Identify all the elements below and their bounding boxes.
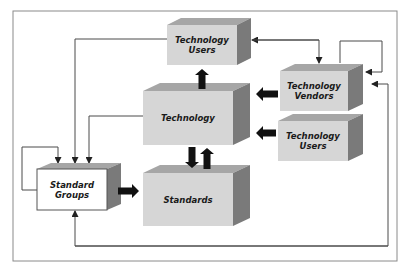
box-top-face xyxy=(143,83,250,91)
box-top-face xyxy=(143,165,250,173)
node-label: Standards xyxy=(163,195,212,205)
box-side-face xyxy=(107,163,121,210)
node-tech-vendors: TechnologyVendors xyxy=(280,64,363,111)
connector-tech-users-to-vendors xyxy=(252,40,319,63)
node-label: Technology xyxy=(286,131,340,141)
block-arrow-technology-to-standards xyxy=(185,147,199,168)
node-label: Technology xyxy=(175,35,229,45)
node-label: Standard xyxy=(50,180,95,190)
box-side-face xyxy=(348,114,363,161)
node-standard-groups: StandardGroups xyxy=(37,163,121,210)
box-side-face xyxy=(348,64,363,111)
node-tech-users-top: TechnologyUsers xyxy=(167,18,251,65)
node-label: Technology xyxy=(161,113,215,123)
node-tech-users-right: TechnologyUsers xyxy=(278,114,363,161)
box-side-face xyxy=(233,83,250,145)
node-label: Users xyxy=(300,141,327,151)
node-label: Groups xyxy=(55,190,89,200)
box-top-face xyxy=(278,114,363,121)
box-top-face xyxy=(37,163,121,169)
node-label: Users xyxy=(189,45,216,55)
node-standards: Standards xyxy=(143,165,250,226)
block-arrow-vendors-to-technology xyxy=(256,87,278,101)
node-technology: Technology xyxy=(143,83,250,145)
node-label: Technology xyxy=(287,81,341,91)
diagram-canvas: TechnologyUsersTechnologyTechnologyVendo… xyxy=(0,0,408,277)
node-label: Vendors xyxy=(295,91,334,101)
box-side-face xyxy=(233,165,250,226)
connector-technology-to-standard-groups xyxy=(89,116,143,163)
block-arrow-tech-users-to-technology xyxy=(256,126,276,140)
box-top-face xyxy=(167,18,251,25)
box-side-face xyxy=(237,18,251,65)
block-arrow-standard-groups-to-standards xyxy=(118,184,139,198)
